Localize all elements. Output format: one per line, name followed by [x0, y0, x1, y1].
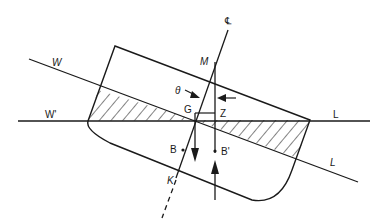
label-G: G — [184, 104, 192, 115]
buoyancy-arrow-icon — [211, 160, 219, 174]
weight-arrow-icon — [191, 148, 199, 162]
point-B — [181, 148, 184, 151]
left-arrow-icon — [217, 94, 226, 102]
immersed-wedge-hatch — [195, 120, 310, 158]
label-M: M — [200, 56, 209, 67]
label-L-lower: L — [330, 157, 336, 168]
theta-arrow-icon — [190, 91, 200, 98]
label-W-prime: W' — [45, 109, 56, 120]
label-B-prime: B' — [221, 146, 230, 157]
stability-diagram: ℄ M θ G Z B B' K W W' L L — [0, 0, 390, 220]
label-L-upper: L — [333, 109, 339, 120]
label-theta: θ — [175, 85, 181, 96]
point-B-prime — [213, 149, 216, 152]
label-W: W — [52, 57, 63, 68]
label-B: B — [170, 144, 177, 155]
label-Z: Z — [220, 108, 226, 119]
label-centerline: ℄ — [224, 15, 232, 26]
